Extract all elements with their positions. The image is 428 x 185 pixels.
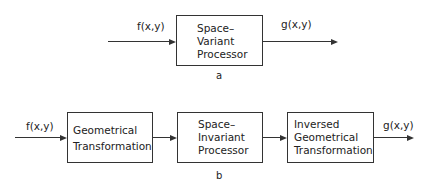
box-line: Space– — [197, 22, 262, 35]
input-arrow-line-b — [15, 137, 61, 138]
output-label-b: g(x,y) — [383, 119, 414, 131]
box-line: Geometrical — [294, 131, 373, 144]
box-line: Inversed — [294, 118, 373, 131]
output-arrow-line-b — [374, 137, 408, 138]
output-arrow-line-a — [263, 41, 332, 42]
arrowhead-icon — [280, 135, 287, 141]
box-line: Processor — [197, 48, 262, 61]
input-arrow-line-a — [108, 41, 170, 42]
input-label-b: f(x,y) — [26, 120, 54, 132]
caption-b: b — [216, 170, 222, 181]
space-variant-processor-box: Space– Variant Processor — [176, 15, 263, 66]
box-line: Variant — [197, 35, 262, 48]
arrowhead-icon — [60, 135, 67, 141]
box-line: Processor — [198, 144, 262, 157]
arrowhead-icon — [407, 135, 414, 141]
arrowhead-icon — [169, 39, 176, 45]
box-line: Invariant — [198, 131, 262, 144]
connector-line — [263, 137, 281, 138]
output-label-a: g(x,y) — [281, 18, 312, 30]
box-line: Transformation — [73, 140, 152, 153]
box-line: Space– — [198, 118, 262, 131]
box-line: Geometrical — [73, 124, 152, 137]
arrowhead-icon — [170, 135, 177, 141]
arrowhead-icon — [331, 39, 338, 45]
box-line: Transformation — [294, 144, 373, 157]
connector-line — [153, 137, 171, 138]
inversed-geometrical-transformation-box: Inversed Geometrical Transformation — [287, 112, 374, 163]
geometrical-transformation-box: Geometrical Transformation — [67, 112, 153, 163]
space-invariant-processor-box: Space– Invariant Processor — [177, 112, 263, 163]
input-label-a: f(x,y) — [137, 20, 165, 32]
caption-a: a — [216, 70, 222, 81]
